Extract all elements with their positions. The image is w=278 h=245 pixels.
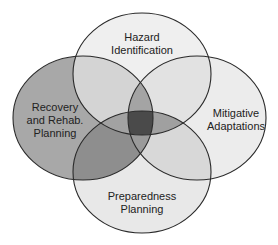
hazard-label: Hazard Identification	[102, 31, 182, 57]
mitigative-label: Mitigative Adaptations	[200, 107, 272, 133]
recovery-label: Recovery and Rehab. Planning	[20, 101, 90, 140]
preparedness-label: Preparedness Planning	[97, 190, 187, 216]
